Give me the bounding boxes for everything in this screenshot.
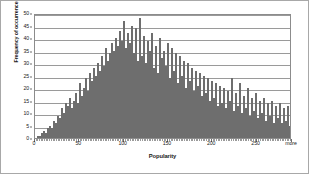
x-axis-title: Popularity bbox=[34, 153, 291, 159]
y-tick-label: 45 bbox=[23, 24, 29, 29]
y-axis-ticks: 05101520253035404550 bbox=[1, 14, 32, 139]
y-tick-label: 35 bbox=[23, 49, 29, 54]
y-tick-label: 0 bbox=[26, 136, 29, 141]
histogram-bar bbox=[289, 126, 291, 139]
y-tick-mark bbox=[30, 39, 32, 40]
x-tick-label: 0 bbox=[33, 141, 36, 146]
y-tick-label: 25 bbox=[23, 74, 29, 79]
y-tick-mark bbox=[30, 89, 32, 90]
y-tick-label: 50 bbox=[23, 11, 29, 16]
y-tick-mark bbox=[30, 101, 32, 102]
y-tick-label: 40 bbox=[23, 36, 29, 41]
y-tick-label: 30 bbox=[23, 61, 29, 66]
histogram-figure: Frequency of occurrence 0510152025303540… bbox=[0, 0, 309, 174]
x-tick-label: more bbox=[285, 141, 296, 146]
x-tick-label: 100 bbox=[118, 141, 126, 146]
y-tick-mark bbox=[30, 14, 32, 15]
y-tick-label: 15 bbox=[23, 99, 29, 104]
x-tick-label: 250 bbox=[251, 141, 259, 146]
y-tick-mark bbox=[30, 26, 32, 27]
y-tick-mark bbox=[30, 126, 32, 127]
plot-area bbox=[34, 14, 291, 139]
y-tick-label: 10 bbox=[23, 111, 29, 116]
y-tick-mark bbox=[30, 114, 32, 115]
y-tick-label: 5 bbox=[26, 124, 29, 129]
y-tick-mark bbox=[30, 51, 32, 52]
y-tick-mark bbox=[30, 76, 32, 77]
y-tick-mark bbox=[30, 64, 32, 65]
y-tick-label: 20 bbox=[23, 86, 29, 91]
histogram-bars bbox=[35, 15, 290, 138]
x-axis-ticks: 050100150200250more bbox=[34, 141, 291, 151]
x-tick-label: 200 bbox=[207, 141, 215, 146]
x-tick-label: 50 bbox=[76, 141, 82, 146]
x-tick-label: 150 bbox=[163, 141, 171, 146]
